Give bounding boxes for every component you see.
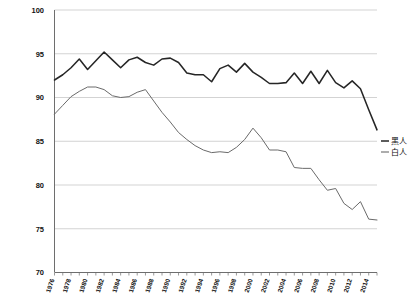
chart-container: 100959085807570 197619781980198219841986… (0, 0, 417, 305)
x-tick-label-1978: 1978 (61, 277, 72, 293)
x-tick-label-2012: 2012 (342, 277, 353, 293)
x-tick-label-1976: 1976 (44, 277, 55, 293)
y-axis-tick-labels: 100959085807570 (31, 6, 44, 278)
x-axis-tick-labels: 1976197819801982198419861988199019921994… (44, 277, 369, 293)
x-tick-label-2014: 2014 (359, 277, 370, 293)
data-series-group (55, 52, 378, 220)
x-tick-label-1986: 1986 (127, 277, 138, 293)
x-tick-label-2006: 2006 (292, 277, 303, 293)
y-tick-label-75: 75 (36, 225, 44, 234)
x-tick-label-2002: 2002 (259, 277, 270, 293)
plot-area: 100959085807570 197619781980198219841986… (0, 0, 417, 305)
x-tick-label-1990: 1990 (160, 277, 171, 293)
gridlines-group (55, 10, 378, 229)
line-chart-svg: 100959085807570 197619781980198219841986… (0, 0, 417, 305)
x-tick-label-2010: 2010 (326, 277, 337, 293)
y-tick-label-70: 70 (36, 268, 44, 277)
x-tick-label-1992: 1992 (177, 277, 188, 293)
x-tick-label-1996: 1996 (210, 277, 221, 293)
x-tick-label-2008: 2008 (309, 277, 320, 293)
x-tick-label-1984: 1984 (111, 277, 122, 293)
series-line-black-population (55, 52, 378, 130)
y-tick-label-80: 80 (36, 181, 44, 190)
x-tick-label-2004: 2004 (276, 277, 287, 293)
x-tick-label-1998: 1998 (226, 277, 237, 293)
series-line-white-population (55, 87, 378, 220)
y-tick-label-90: 90 (36, 93, 44, 102)
chart-legend: 黑人白人 (381, 137, 407, 157)
x-tick-label-1980: 1980 (77, 277, 88, 293)
x-tick-label-1982: 1982 (94, 277, 105, 293)
legend-label-black-population: 黑人 (391, 137, 407, 146)
y-tick-label-100: 100 (31, 6, 44, 15)
y-tick-label-85: 85 (36, 137, 44, 146)
x-tick-label-1994: 1994 (193, 277, 204, 293)
x-tick-label-2000: 2000 (243, 277, 254, 293)
x-tick-label-1988: 1988 (144, 277, 155, 293)
legend-label-white-population: 白人 (391, 147, 407, 157)
y-tick-label-95: 95 (36, 50, 44, 59)
